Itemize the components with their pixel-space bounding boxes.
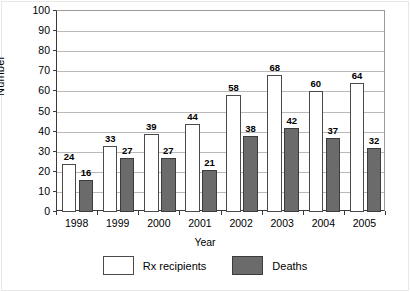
y-tick-label: 0 bbox=[24, 206, 50, 217]
x-tick-label: 1998 bbox=[56, 218, 97, 229]
x-tick-label: 2004 bbox=[303, 218, 344, 229]
bar-value-label: 60 bbox=[303, 79, 330, 89]
x-tick-mark bbox=[385, 211, 386, 215]
y-tick-label: 90 bbox=[24, 25, 50, 36]
y-tick-label: 20 bbox=[24, 166, 50, 177]
x-tick-mark bbox=[97, 211, 98, 215]
bar-value-label: 68 bbox=[261, 63, 288, 73]
gridline bbox=[57, 31, 384, 32]
gridline bbox=[57, 112, 384, 113]
bar-deaths-2003 bbox=[284, 128, 299, 212]
chart-legend: Rx recipientsDeaths bbox=[0, 256, 410, 275]
bar-deaths-1999 bbox=[120, 158, 135, 212]
x-tick-label: 1999 bbox=[97, 218, 138, 229]
bar-deaths-2002 bbox=[243, 136, 258, 212]
bar-value-label: 24 bbox=[56, 152, 83, 162]
bar-chart-figure: Number 0102030405060708090100 2416332739… bbox=[0, 0, 410, 292]
y-tick-label: 100 bbox=[24, 5, 50, 16]
y-tick-label: 50 bbox=[24, 106, 50, 117]
x-tick-label: 2005 bbox=[344, 218, 385, 229]
x-tick-mark bbox=[138, 211, 139, 215]
bar-deaths-2005 bbox=[367, 148, 382, 212]
bar-value-label: 44 bbox=[179, 112, 206, 122]
x-tick-mark bbox=[179, 211, 180, 215]
x-axis-title: Year bbox=[0, 236, 410, 248]
y-tick-label: 80 bbox=[24, 45, 50, 56]
bar-value-label: 64 bbox=[344, 71, 371, 81]
legend-swatch-white-icon bbox=[103, 256, 134, 275]
x-tick-label: 2002 bbox=[221, 218, 262, 229]
bar-value-label: 39 bbox=[138, 122, 165, 132]
x-tick-mark bbox=[303, 211, 304, 215]
gridline bbox=[57, 51, 384, 52]
bar-rx-recipients-2004 bbox=[309, 91, 324, 212]
bar-value-label: 21 bbox=[196, 158, 223, 168]
bar-deaths-2000 bbox=[161, 158, 176, 212]
bar-rx-recipients-2005 bbox=[350, 83, 365, 212]
y-tick-label: 70 bbox=[24, 65, 50, 76]
y-tick-label: 30 bbox=[24, 146, 50, 157]
y-tick-label: 10 bbox=[24, 186, 50, 197]
x-tick-mark bbox=[56, 211, 57, 215]
bar-deaths-1998 bbox=[79, 180, 94, 212]
x-tick-label: 2001 bbox=[179, 218, 220, 229]
x-tick-mark bbox=[344, 211, 345, 215]
gridline bbox=[57, 71, 384, 72]
y-tick-label: 40 bbox=[24, 126, 50, 137]
bar-value-label: 27 bbox=[155, 146, 182, 156]
bar-value-label: 32 bbox=[361, 136, 388, 146]
x-tick-mark bbox=[221, 211, 222, 215]
x-tick-mark bbox=[262, 211, 263, 215]
bar-deaths-2001 bbox=[202, 170, 217, 212]
x-tick-label: 2000 bbox=[138, 218, 179, 229]
bar-value-label: 27 bbox=[114, 146, 141, 156]
legend-label: Deaths bbox=[272, 260, 307, 272]
y-tick-label: 60 bbox=[24, 85, 50, 96]
bar-deaths-2004 bbox=[326, 138, 341, 212]
bar-value-label: 42 bbox=[278, 116, 305, 126]
legend-label: Rx recipients bbox=[143, 260, 207, 272]
bar-value-label: 58 bbox=[220, 83, 247, 93]
plot-area: 24163327392744215838684260376432 bbox=[56, 10, 385, 211]
bar-rx-recipients-2002 bbox=[226, 95, 241, 212]
bar-value-label: 16 bbox=[73, 168, 100, 178]
bar-rx-recipients-2003 bbox=[267, 75, 282, 212]
bar-value-label: 38 bbox=[237, 124, 264, 134]
bar-value-label: 33 bbox=[97, 134, 124, 144]
legend-item-rx-recipients: Rx recipients bbox=[103, 256, 207, 275]
x-tick-label: 2003 bbox=[262, 218, 303, 229]
legend-swatch-gray-icon bbox=[232, 256, 263, 275]
bar-value-label: 37 bbox=[320, 126, 347, 136]
y-axis-title: Number bbox=[0, 56, 6, 96]
legend-item-deaths: Deaths bbox=[232, 256, 307, 275]
